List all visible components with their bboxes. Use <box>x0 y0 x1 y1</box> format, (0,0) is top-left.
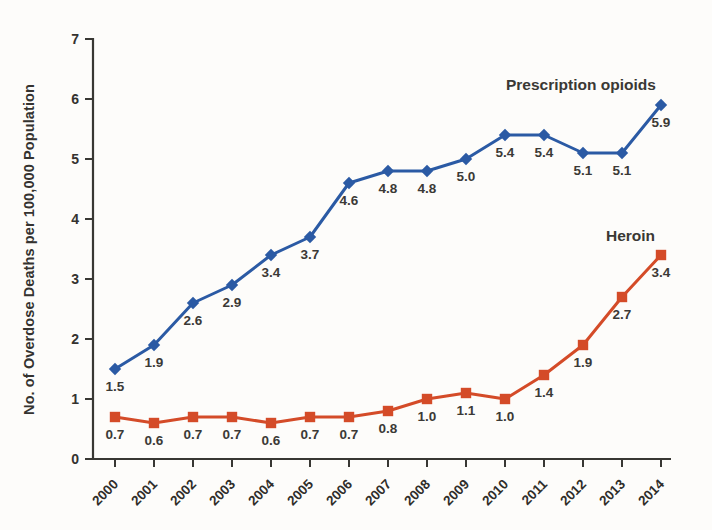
series-label-heroin: Heroin <box>606 227 655 245</box>
data-point-label: 5.1 <box>613 163 632 178</box>
data-point-marker-square <box>305 412 315 422</box>
data-point-label: 0.7 <box>301 427 320 442</box>
data-point-label: 1.1 <box>457 403 476 418</box>
data-point-marker-square <box>344 412 354 422</box>
data-point-label: 1.5 <box>106 379 125 394</box>
data-point-marker-square <box>617 292 627 302</box>
y-tick-label: 2 <box>71 331 79 347</box>
data-point-marker-square <box>422 394 432 404</box>
data-point-label: 2.9 <box>223 295 242 310</box>
data-point-label: 3.4 <box>262 265 281 280</box>
y-tick-label: 5 <box>71 151 79 167</box>
data-point-label: 4.8 <box>379 181 398 196</box>
data-point-label: 3.4 <box>652 265 671 280</box>
data-point-marker-square <box>188 412 198 422</box>
x-tick-label: 2001 <box>128 476 160 508</box>
data-point-label: 5.0 <box>457 169 476 184</box>
x-tick-label: 2007 <box>362 477 394 509</box>
data-point-label: 5.9 <box>652 115 671 130</box>
x-tick-label: 2005 <box>284 476 316 508</box>
y-tick-label: 1 <box>71 391 79 407</box>
data-point-marker-square <box>461 388 471 398</box>
x-tick-label: 2008 <box>401 476 433 508</box>
overdose-deaths-line-chart: 0123456720002001200220032004200520062007… <box>0 0 712 530</box>
data-point-marker-diamond <box>382 165 394 177</box>
data-point-marker-square <box>227 412 237 422</box>
x-tick-label: 2006 <box>323 476 355 508</box>
data-point-marker-square <box>539 370 549 380</box>
data-point-label: 1.0 <box>418 409 437 424</box>
data-point-label: 1.9 <box>574 355 593 370</box>
data-point-label: 5.4 <box>496 145 515 160</box>
data-point-label: 2.7 <box>613 307 632 322</box>
x-tick-label: 2009 <box>440 477 472 509</box>
x-tick-label: 2013 <box>596 476 628 508</box>
y-tick-label: 0 <box>71 451 79 467</box>
data-point-label: 4.6 <box>340 193 359 208</box>
y-axis-title: No. of Overdose Deaths per 100,000 Popul… <box>21 20 40 480</box>
data-point-marker-square <box>110 412 120 422</box>
data-point-label: 1.4 <box>535 385 554 400</box>
data-point-label: 0.7 <box>340 427 359 442</box>
data-point-label: 0.7 <box>184 427 203 442</box>
x-tick-label: 2012 <box>557 477 589 509</box>
data-point-label: 0.8 <box>379 421 398 436</box>
data-point-label: 2.6 <box>184 313 203 328</box>
data-point-label: 5.1 <box>574 163 593 178</box>
series-label-prescription-opioids: Prescription opioids <box>506 76 656 94</box>
data-point-marker-square <box>578 340 588 350</box>
data-point-marker-diamond <box>421 165 433 177</box>
data-point-marker-diamond <box>577 147 589 159</box>
x-tick-label: 2014 <box>635 476 667 508</box>
y-tick-label: 6 <box>71 91 79 107</box>
data-point-marker-square <box>383 406 393 416</box>
data-point-label: 1.0 <box>496 409 515 424</box>
x-tick-label: 2004 <box>245 476 277 508</box>
data-point-label: 1.9 <box>145 355 164 370</box>
data-point-marker-square <box>500 394 510 404</box>
data-point-marker-square <box>149 418 159 428</box>
data-point-marker-square <box>656 250 666 260</box>
y-tick-label: 3 <box>71 271 79 287</box>
data-point-marker-diamond <box>538 129 550 141</box>
x-tick-label: 2010 <box>479 477 511 509</box>
data-point-marker-square <box>266 418 276 428</box>
y-tick-label: 7 <box>71 31 79 47</box>
data-point-label: 5.4 <box>535 145 554 160</box>
x-tick-label: 2002 <box>167 477 199 509</box>
x-tick-label: 2000 <box>89 477 121 509</box>
x-tick-label: 2003 <box>206 476 238 508</box>
data-point-label: 3.7 <box>301 247 320 262</box>
y-tick-label: 4 <box>71 211 79 227</box>
x-tick-label: 2011 <box>519 476 551 508</box>
data-point-label: 0.7 <box>223 427 242 442</box>
data-point-label: 0.6 <box>262 433 281 448</box>
series-line-square <box>115 255 661 423</box>
data-point-label: 4.8 <box>418 181 437 196</box>
data-point-label: 0.6 <box>145 433 164 448</box>
data-point-label: 0.7 <box>106 427 125 442</box>
series-line-diamond <box>115 105 661 369</box>
